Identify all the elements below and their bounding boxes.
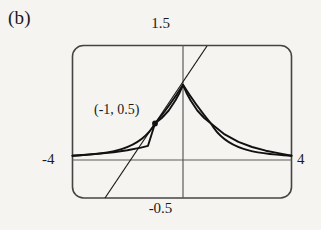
function-curve [73,85,292,156]
tangent-point-marker [152,121,158,127]
axis-label-y-min: -0.5 [0,201,321,216]
figure-panel-b: (b) 1.5 -0.5 -4 4 (-1, 0.5) [0,0,321,230]
function-curve-smooth [73,85,292,156]
plot-svg [0,0,321,230]
axis-label-y-max: 1.5 [0,16,321,31]
point-annotation-label: (-1, 0.5) [94,103,140,117]
plot-frame [73,46,292,199]
axis-label-x-min: -4 [42,152,55,167]
axis-label-x-max: 4 [297,152,305,167]
